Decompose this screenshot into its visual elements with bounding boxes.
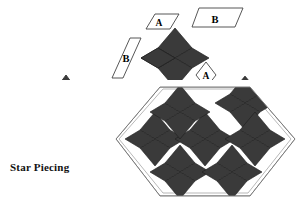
template-a-middle-label: A xyxy=(203,71,210,81)
star-piecing-figure: A A A A B B A xyxy=(0,0,303,217)
figure-canvas: A A A A B B A xyxy=(0,0,303,217)
template-b-left: B xyxy=(112,38,141,78)
template-b-top-label: B xyxy=(211,14,218,25)
template-b-left-label: B xyxy=(122,53,129,64)
hexagon-quilt-block xyxy=(0,76,303,217)
star-piecing-caption: Star Piecing xyxy=(10,161,69,173)
template-b-top: B xyxy=(192,8,243,27)
template-a-top: A xyxy=(146,14,179,29)
template-a-top-label: A xyxy=(156,18,163,28)
